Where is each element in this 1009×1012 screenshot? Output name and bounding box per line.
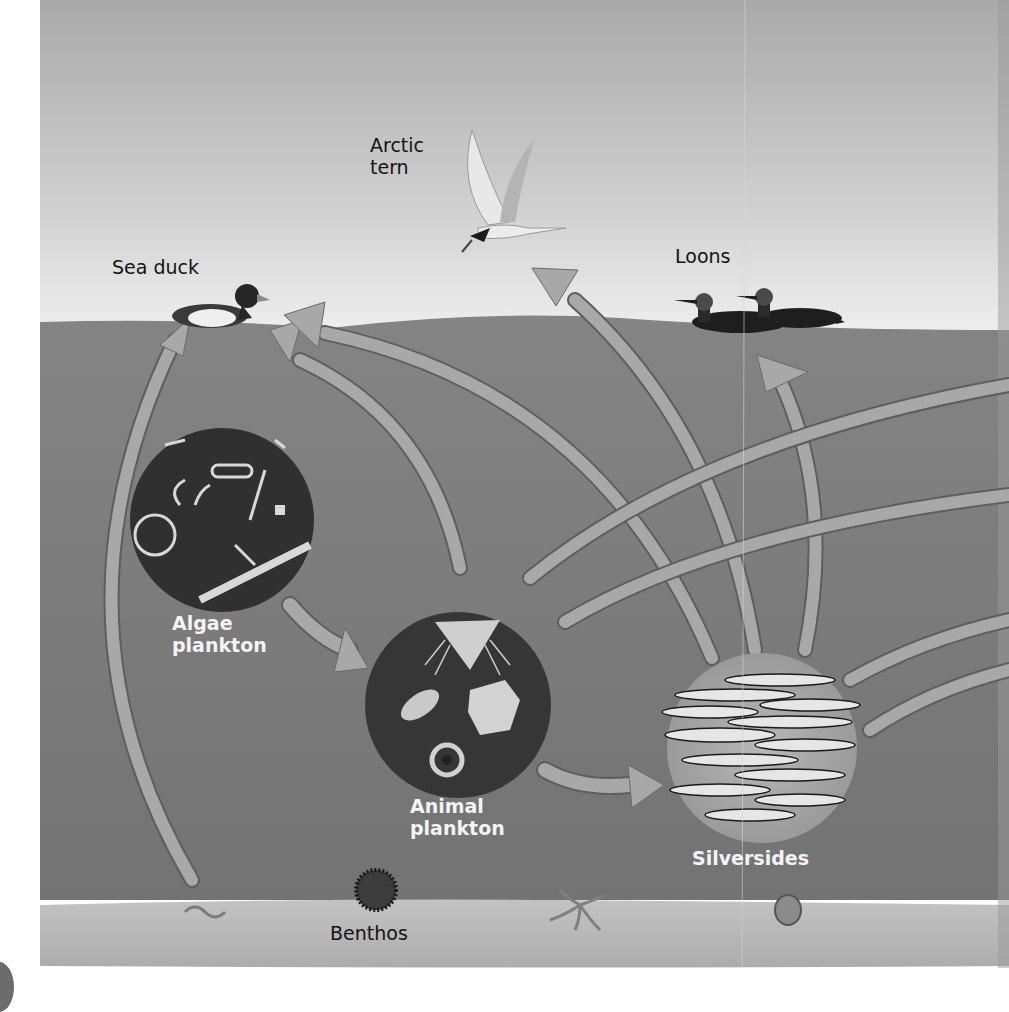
label-animal-line2: plankton [410,817,505,839]
label-animal-line1: Animal [410,795,505,817]
label-animal-plankton: Animal plankton [410,795,505,840]
label-algae-line1: Algae [172,612,267,634]
label-algae-plankton: Algae plankton [172,612,267,657]
label-algae-line2: plankton [172,634,267,656]
algae-plankton-circle [130,428,314,612]
label-loons: Loons [675,245,730,267]
label-arctic-tern-line2: tern [370,156,424,178]
label-sea-duck: Sea duck [112,256,199,278]
animal-plankton-circle [365,612,551,798]
label-benthos: Benthos [330,922,408,944]
label-silversides: Silversides [692,847,809,869]
label-arctic-tern: Arctic tern [370,134,424,179]
label-arctic-tern-line1: Arctic [370,134,424,156]
water-region [40,316,1009,900]
